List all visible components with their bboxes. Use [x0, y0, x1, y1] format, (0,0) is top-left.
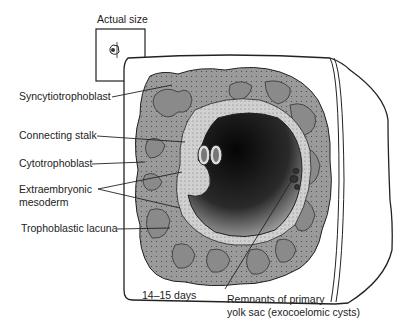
label-trophoblastic-lacuna: Trophoblastic lacuna — [21, 222, 118, 235]
inset-title: Actual size — [97, 13, 148, 26]
label-extraembryonic: Extraembryonic — [19, 183, 92, 196]
label-remnants-line1: Remnants of primary — [227, 293, 324, 306]
stage-label: 14–15 days — [142, 289, 196, 302]
label-mesoderm: mesoderm — [19, 196, 69, 209]
label-syncytiotrophoblast: Syncytiotrophoblast — [19, 90, 111, 103]
label-connecting-stalk: Connecting stalk — [19, 129, 97, 142]
label-remnants-line2: yolk sac (exocoelomic cysts) — [227, 306, 360, 319]
label-cytotrophoblast: Cytotrophoblast — [19, 157, 93, 170]
